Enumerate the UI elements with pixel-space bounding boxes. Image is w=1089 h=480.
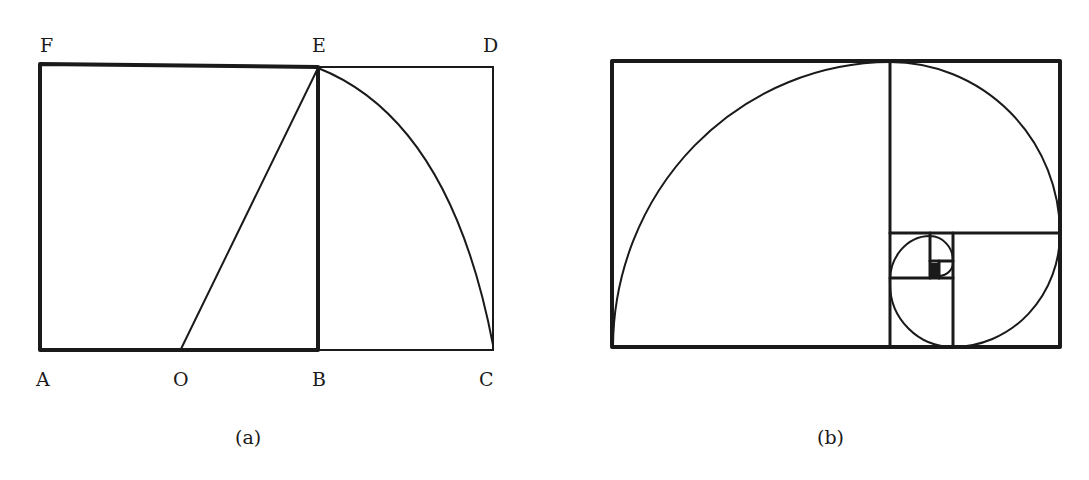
label-e: E [312, 34, 326, 56]
golden-ratio-figures: F E D A O B C (a) (b) [0, 0, 1089, 480]
label-d: D [483, 34, 498, 56]
label-b: B [312, 368, 326, 390]
line-oe [180, 68, 318, 351]
label-c: C [479, 368, 494, 390]
figure-b: (b) [612, 61, 1060, 448]
label-o: O [173, 368, 189, 390]
square-abef [40, 64, 318, 350]
golden-spiral [613, 62, 1060, 347]
figure-a: F E D A O B C (a) [35, 34, 498, 448]
label-f: F [40, 34, 53, 56]
golden-rectangle [612, 61, 1060, 347]
arc-ec [318, 68, 493, 345]
caption-a: (a) [235, 426, 261, 448]
rectangle-bcde [318, 67, 493, 350]
caption-b: (b) [817, 426, 844, 448]
label-a: A [35, 368, 50, 390]
